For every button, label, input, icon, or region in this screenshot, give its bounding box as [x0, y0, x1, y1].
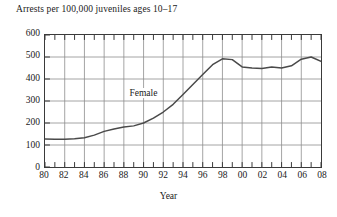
- x-axis-tick-label: 80: [34, 171, 54, 181]
- x-axis-tick-label: 04: [272, 171, 292, 181]
- x-axis-tick-label: 02: [252, 171, 272, 181]
- x-axis-tick-label: 88: [113, 171, 133, 181]
- y-axis-tick-label: 200: [0, 119, 40, 129]
- y-axis-tick-labels: 0100200300400500600: [0, 34, 40, 168]
- y-axis-tick-label: 300: [0, 96, 40, 106]
- series-annotation-female: Female: [128, 88, 158, 98]
- x-axis-tick-label: 94: [173, 171, 193, 181]
- y-axis-tick-label: 600: [0, 29, 40, 39]
- x-axis-tick-labels: 808284868890929496980002040608: [44, 171, 322, 185]
- x-axis-tick-label: 84: [74, 171, 94, 181]
- x-axis-tick-label: 82: [54, 171, 74, 181]
- chart-title: Arrests per 100,000 juveniles ages 10–17: [16, 4, 177, 14]
- x-axis-tick-label: 08: [312, 171, 332, 181]
- plot-area: [44, 34, 322, 168]
- x-axis-tick-label: 90: [133, 171, 153, 181]
- x-axis-tick-label: 96: [193, 171, 213, 181]
- y-axis-tick-label: 500: [0, 52, 40, 62]
- x-axis-tick-label: 92: [153, 171, 173, 181]
- x-axis-tick-label: 86: [94, 171, 114, 181]
- x-axis-tick-label: 06: [292, 171, 312, 181]
- chart-container: Arrests per 100,000 juveniles ages 10–17…: [0, 0, 337, 217]
- x-axis-title: Year: [0, 191, 337, 201]
- x-axis-tick-label: 98: [213, 171, 233, 181]
- y-axis-tick-label: 400: [0, 74, 40, 84]
- x-axis-tick-label: 00: [233, 171, 253, 181]
- y-axis-tick-label: 100: [0, 141, 40, 151]
- plot-grid-and-series: [45, 35, 321, 167]
